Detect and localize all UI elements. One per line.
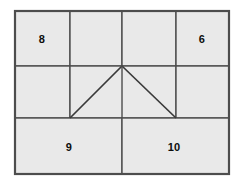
middle-cell-right xyxy=(176,66,229,118)
top-cell-3 xyxy=(122,11,176,66)
grid-triangle-diagram xyxy=(0,0,243,187)
middle-cell-center xyxy=(70,66,176,118)
middle-cell-left xyxy=(15,66,70,118)
cell-label-6: 6 xyxy=(199,34,205,45)
cell-label-10: 10 xyxy=(168,142,181,153)
top-cell-2 xyxy=(70,11,122,66)
bottom-row-cells xyxy=(15,118,229,174)
geometry-figure: 8 6 9 10 xyxy=(0,0,243,187)
cell-label-9: 9 xyxy=(66,142,72,153)
cell-label-8: 8 xyxy=(39,34,45,45)
top-row-cells xyxy=(15,11,229,66)
